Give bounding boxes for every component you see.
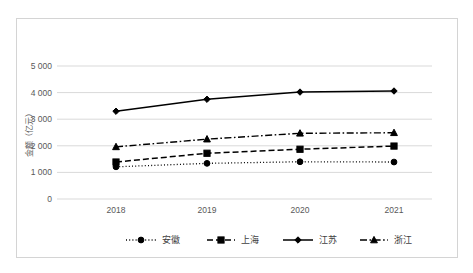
line-chart: 5 000 4 000 3 000 2 000 1 000 0 金额（亿元） 2… [0, 0, 473, 273]
series-江苏 [113, 88, 397, 115]
y-axis-title: 金额（亿元） [24, 109, 34, 157]
data-point-江苏-2021 [391, 88, 397, 94]
y-tick-0: 0 [47, 194, 52, 204]
legend-marker-上海 [218, 237, 224, 243]
series-安徽 [113, 159, 397, 170]
data-point-上海-2019 [204, 150, 210, 156]
data-point-安徽-2020 [297, 159, 303, 165]
data-point-浙江-2019 [204, 136, 211, 142]
x-tick-2021: 2021 [385, 205, 404, 215]
legend-marker-安徽 [138, 237, 144, 243]
series-line-安徽 [116, 162, 394, 167]
legend-item-江苏[interactable]: 江苏 [283, 234, 337, 245]
legend-label-安徽: 安徽 [162, 234, 180, 245]
series-line-上海 [116, 146, 394, 162]
legend-marker-江苏 [295, 237, 301, 243]
data-point-江苏-2019 [204, 96, 210, 102]
data-point-上海-2021 [391, 143, 397, 149]
chart-legend: 安徽上海江苏浙江 [126, 234, 412, 245]
series-浙江 [113, 129, 398, 149]
data-point-安徽-2019 [204, 160, 210, 166]
x-tick-2020: 2020 [291, 205, 310, 215]
y-tick-4000: 4 000 [31, 88, 53, 98]
series-line-浙江 [116, 133, 394, 147]
series-line-江苏 [116, 91, 394, 111]
legend-label-江苏: 江苏 [319, 234, 337, 245]
y-tick-5000: 5 000 [31, 61, 53, 71]
data-point-江苏-2018 [113, 108, 119, 114]
legend-item-安徽[interactable]: 安徽 [126, 234, 180, 245]
x-tick-2018: 2018 [107, 205, 126, 215]
x-tick-2019: 2019 [198, 205, 217, 215]
data-point-上海-2018 [113, 159, 119, 165]
data-point-江苏-2020 [297, 89, 303, 95]
chart-svg: 5 000 4 000 3 000 2 000 1 000 0 金额（亿元） 2… [0, 0, 473, 273]
legend-item-浙江[interactable]: 浙江 [360, 234, 412, 245]
series-layer [113, 88, 398, 170]
legend-label-上海: 上海 [241, 234, 259, 245]
y-tick-1000: 1 000 [31, 167, 53, 177]
data-point-上海-2020 [297, 146, 303, 152]
data-point-安徽-2021 [391, 159, 397, 165]
legend-label-浙江: 浙江 [394, 234, 412, 245]
x-axis-tick-labels: 2018 2019 2020 2021 [107, 205, 404, 215]
legend-item-上海[interactable]: 上海 [207, 234, 259, 245]
